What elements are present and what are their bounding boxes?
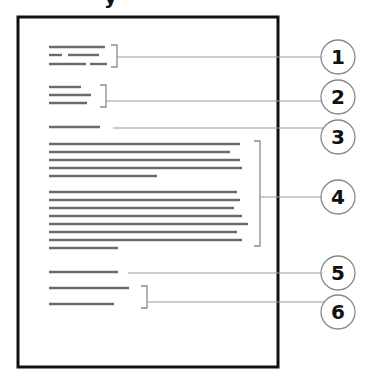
- callout-1: 1: [321, 40, 355, 74]
- callout-2: 2: [321, 80, 355, 114]
- callout-3: 3: [321, 120, 355, 154]
- callout-4: 4: [321, 180, 355, 214]
- callout-number: 4: [331, 185, 345, 209]
- cut-off-title-glyph: y: [104, 0, 117, 9]
- callout-6: 6: [321, 295, 355, 329]
- callout-number: 6: [331, 300, 345, 324]
- callout-number: 2: [331, 85, 345, 109]
- callout-number: 3: [331, 125, 345, 149]
- callout-circles: 123456: [321, 40, 355, 329]
- title-glyph: y: [104, 0, 117, 9]
- callout-number: 1: [331, 45, 345, 69]
- document-layout-diagram: y 123456: [0, 0, 373, 380]
- callout-5: 5: [321, 256, 355, 290]
- callout-number: 5: [331, 261, 345, 285]
